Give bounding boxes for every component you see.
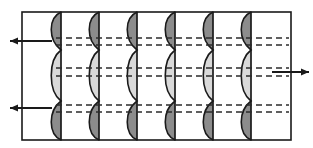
figure-container (0, 0, 313, 148)
velocity-profile-diagram (0, 0, 313, 148)
